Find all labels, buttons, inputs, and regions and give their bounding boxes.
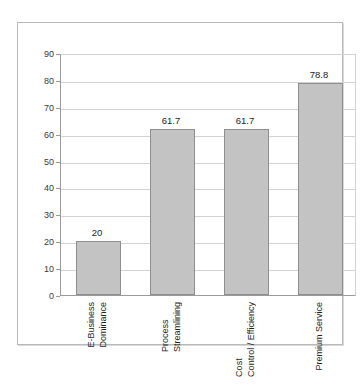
category-label-line: Cost (233, 302, 245, 377)
y-axis-tick-label: 40 (20, 184, 54, 193)
category-label-line: Premium Service (313, 302, 325, 371)
category-label-line: Process (159, 302, 171, 352)
y-axis-tick-label: 80 (20, 77, 54, 86)
bar-value-label: 20 (67, 228, 127, 238)
bar[interactable] (150, 129, 195, 295)
bar[interactable] (298, 83, 343, 295)
bar-value-label: 61.7 (141, 116, 201, 126)
y-axis-tick-label: 10 (20, 265, 54, 274)
plot-area (60, 54, 356, 296)
category-label-line: Control / Efficiency (245, 302, 257, 377)
bar-value-label: 78.8 (289, 70, 349, 80)
category-label: Premium Service (313, 302, 325, 371)
category-label-line: Streamlining (171, 302, 183, 352)
y-axis-tick-label: 50 (20, 158, 54, 167)
y-axis-tick-label: 90 (20, 50, 54, 59)
y-axis-tick-label: 30 (20, 211, 54, 220)
category-label-line: Dominance (97, 302, 109, 348)
bar-value-label: 61.7 (215, 116, 275, 126)
category-label-line: E-Business (85, 302, 97, 348)
y-axis-tick-label: 0 (20, 292, 54, 301)
category-label: E-BusinessDominance (85, 302, 109, 348)
bar[interactable] (224, 129, 269, 295)
bar[interactable] (76, 241, 121, 295)
y-axis-tick-label: 60 (20, 131, 54, 140)
y-axis-tick-mark (56, 296, 60, 297)
y-axis-tick-label: 70 (20, 104, 54, 113)
y-axis-tick-label: 20 (20, 238, 54, 247)
category-label: ProcessStreamlining (159, 302, 183, 352)
chart-frame: 9080706050403020100 2061.761.778.8 E-Bus… (17, 22, 343, 345)
category-label: CostControl / Efficiency (233, 302, 257, 377)
